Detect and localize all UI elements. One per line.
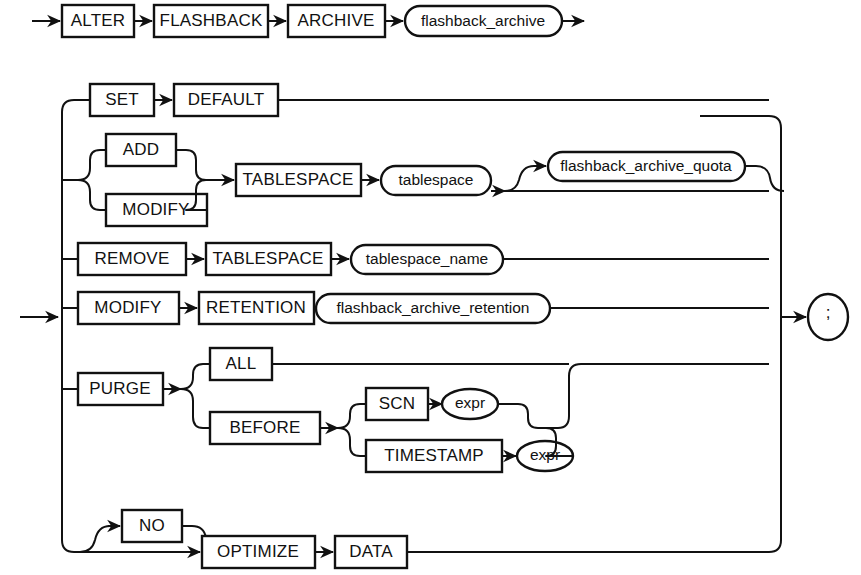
keyword-label-timestamp: TIMESTAMP bbox=[384, 446, 484, 465]
branch-set-default: SET DEFAULT bbox=[90, 84, 769, 116]
branch-optimize-data: NO OPTIMIZE DATA bbox=[74, 510, 769, 568]
optional-branch-up-no bbox=[80, 526, 118, 552]
keyword-label-optimize: OPTIMIZE bbox=[217, 542, 299, 561]
fork-before-upper-scn bbox=[338, 404, 366, 428]
branch-purge: PURGE ALL BEFORE SCN expr TIMESTAMP expr bbox=[62, 348, 769, 472]
right-top-corner bbox=[700, 116, 781, 128]
keyword-label-modify-retention: MODIFY bbox=[94, 298, 161, 317]
variable-label-tablespace-name: tablespace_name bbox=[366, 250, 488, 267]
keyword-label-remove: REMOVE bbox=[95, 249, 170, 268]
keyword-label-tablespace: TABLESPACE bbox=[243, 170, 354, 189]
variable-label-expr-scn: expr bbox=[455, 394, 485, 411]
keyword-label-all: ALL bbox=[226, 354, 257, 373]
fork-purge-upper-all bbox=[181, 364, 210, 389]
right-bottom-corner bbox=[700, 540, 781, 552]
terminator-label-semicolon: ; bbox=[826, 303, 831, 322]
optional-branch-up-quota bbox=[505, 166, 544, 191]
fork-right-upper-add bbox=[176, 150, 218, 180]
keyword-label-purge: PURGE bbox=[89, 379, 150, 398]
branch-modify-retention: MODIFY RETENTION flashback_archive_reten… bbox=[62, 292, 769, 324]
keyword-label-before: BEFORE bbox=[229, 418, 300, 437]
keyword-label-flashback: FLASHBACK bbox=[160, 11, 263, 30]
variable-label-flashback-archive: flashback_archive bbox=[421, 12, 545, 29]
keyword-label-set: SET bbox=[105, 90, 139, 109]
keyword-label-tablespace-2: TABLESPACE bbox=[213, 249, 324, 268]
variable-label-tablespace: tablespace bbox=[399, 171, 474, 188]
fork-left-lower-modify bbox=[78, 180, 106, 210]
syntax-diagram-canvas: ALTER FLASHBACK ARCHIVE flashback_archiv… bbox=[0, 0, 861, 575]
fork-left-upper-add bbox=[78, 150, 106, 180]
keyword-label-add: ADD bbox=[123, 140, 160, 159]
keyword-label-data: DATA bbox=[349, 542, 393, 561]
merge-purge-to-right bbox=[556, 364, 769, 428]
keyword-label-archive: ARCHIVE bbox=[298, 11, 375, 30]
branch-add-modify-tablespace: ADD MODIFY TABLESPACE tablespace flashba… bbox=[62, 134, 784, 226]
keyword-label-default: DEFAULT bbox=[188, 90, 265, 109]
keyword-label-no: NO bbox=[139, 516, 165, 535]
keyword-label-alter: ALTER bbox=[71, 11, 126, 30]
optional-branch-down-quota bbox=[745, 166, 784, 191]
left-top-corner bbox=[62, 100, 90, 112]
merge-scn-branch bbox=[498, 404, 556, 428]
keyword-label-modify-tablespace: MODIFY bbox=[122, 200, 189, 219]
variable-label-flashback-archive-quota: flashback_archive_quota bbox=[560, 157, 732, 174]
keyword-label-scn: SCN bbox=[379, 394, 416, 413]
keyword-label-retention: RETENTION bbox=[206, 298, 306, 317]
fork-purge-lower-before bbox=[181, 389, 210, 428]
variable-label-flashback-archive-retention: flashback_archive_retention bbox=[336, 299, 529, 316]
fork-before-lower-timestamp bbox=[338, 428, 366, 456]
header-row: ALTER FLASHBACK ARCHIVE flashback_archiv… bbox=[32, 5, 584, 37]
branch-remove-tablespace: REMOVE TABLESPACE tablespace_name bbox=[62, 243, 769, 275]
